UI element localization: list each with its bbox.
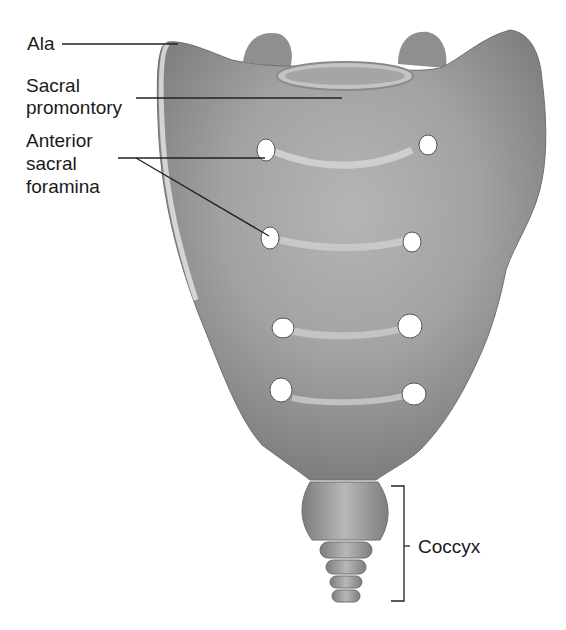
label-sacral-promontory-line1: Sacral [26, 75, 80, 97]
label-coccyx: Coccyx [418, 536, 480, 558]
sacrum-illustration [0, 0, 566, 630]
coccyx-illustration [302, 482, 388, 602]
label-anterior-foramina-line2: sacral [26, 153, 77, 175]
right-articular-process [398, 32, 446, 68]
left-articular-process [243, 33, 292, 68]
label-anterior-foramina-line3: foramina [26, 176, 100, 198]
label-ala: Ala [27, 33, 54, 55]
label-anterior-foramina-line1: Anterior [26, 130, 93, 152]
coccyx-bracket [391, 486, 404, 601]
label-sacral-promontory-line2: promontory [26, 97, 122, 119]
